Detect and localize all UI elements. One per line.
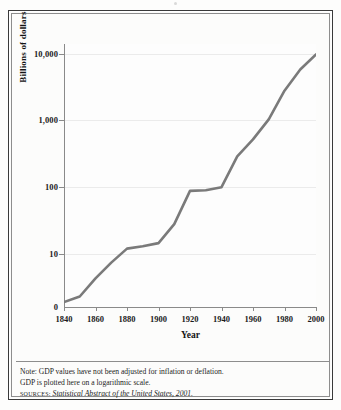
note-line-2: GDP is plotted here on a logarithmic sca… — [20, 377, 325, 388]
figure-frame: 101001,00010,0000 1840186018801900192019… — [8, 10, 333, 400]
y-axis-label-1000: 1,000 — [38, 115, 58, 125]
x-axis-label-1920: 1920 — [182, 314, 199, 324]
y-axis-label-100: 100 — [45, 182, 58, 192]
x-axis-label-1940: 1940 — [213, 314, 230, 324]
x-axis-label-1860: 1860 — [87, 314, 104, 324]
scan-artifact-speck — [174, 2, 177, 5]
x-axis-label-2000: 2000 — [308, 314, 325, 324]
gdp-line-series — [64, 44, 316, 308]
note-separator — [16, 361, 329, 362]
x-axis-label-1900: 1900 — [150, 314, 167, 324]
y-axis-title: Billions of dollars — [18, 0, 28, 112]
y-axis-label-zero: 0 — [54, 302, 58, 312]
x-axis-title: Year — [64, 330, 317, 340]
y-axis-label-10: 10 — [49, 249, 58, 259]
source-citation: Statistical Abstract of the United State… — [53, 389, 193, 398]
footnote-block: Note: GDP values have not been adjusted … — [20, 366, 325, 401]
x-axis-label-1980: 1980 — [276, 314, 293, 324]
x-axis-label-1960: 1960 — [245, 314, 262, 324]
y-axis-label-10000: 10,000 — [34, 49, 58, 59]
x-tick-2000 — [316, 307, 317, 311]
x-axis-label-1880: 1880 — [119, 314, 136, 324]
x-axis-label-1840: 1840 — [56, 314, 73, 324]
note-line-1: Note: GDP values have not been adjusted … — [20, 366, 325, 377]
figure-frame-inner: 101001,00010,0000 1840186018801900192019… — [11, 13, 330, 397]
source-label: Sources: — [20, 391, 51, 397]
source-line: Sources: Statistical Abstract of the Uni… — [20, 388, 325, 400]
chart-area: 101001,00010,0000 1840186018801900192019… — [12, 14, 337, 359]
figure-root: 101001,00010,0000 1840186018801900192019… — [0, 0, 341, 410]
